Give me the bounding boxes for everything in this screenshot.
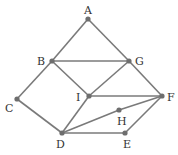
node-label-F: F	[167, 91, 175, 104]
node-A	[85, 16, 90, 21]
graph-diagram: ABGCIFHDE	[0, 0, 178, 155]
node-label-D: D	[56, 138, 65, 151]
graph-edges	[17, 19, 162, 133]
node-G	[126, 58, 131, 63]
node-label-H: H	[117, 115, 127, 128]
edge-B-C	[17, 61, 52, 99]
edge-B-I	[52, 61, 89, 96]
edge-G-I	[89, 61, 129, 96]
edge-G-F	[129, 61, 162, 96]
graph-nodes: ABGCIFHDE	[5, 4, 175, 151]
node-label-A: A	[83, 4, 93, 17]
node-C	[14, 96, 19, 101]
node-H	[116, 107, 121, 112]
node-D	[59, 130, 64, 135]
node-label-B: B	[37, 55, 45, 68]
node-I	[86, 93, 91, 98]
node-E	[122, 130, 127, 135]
node-label-G: G	[135, 55, 144, 68]
node-label-C: C	[5, 102, 13, 115]
node-F	[159, 93, 164, 98]
edge-A-B	[52, 19, 88, 61]
node-B	[49, 58, 54, 63]
node-label-I: I	[76, 91, 80, 104]
edge-A-G	[88, 19, 129, 61]
edge-C-D	[17, 99, 62, 133]
node-label-E: E	[123, 138, 131, 151]
